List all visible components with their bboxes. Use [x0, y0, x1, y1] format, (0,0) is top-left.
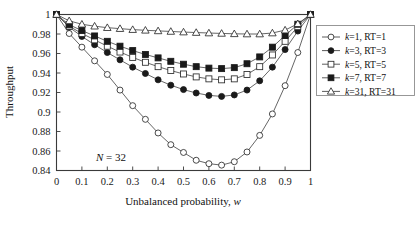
data-point-marker: [104, 38, 110, 44]
data-point-marker: [181, 61, 187, 67]
legend-item-label: k=7, RT=7: [345, 72, 386, 83]
data-point-marker: [181, 71, 187, 77]
data-point-marker: [219, 93, 225, 99]
data-point-marker: [219, 162, 225, 168]
data-point-marker: [231, 92, 237, 98]
data-point-marker: [244, 87, 250, 93]
data-point-marker: [206, 65, 212, 71]
y-tick-label: 0.84: [32, 165, 51, 176]
data-point-marker: [193, 90, 199, 96]
legend-item-1[interactable]: k=1, RT=1: [322, 31, 386, 42]
data-point-marker: [168, 142, 174, 148]
data-point-marker: [92, 58, 98, 64]
data-point-marker: [257, 64, 263, 70]
data-series-group: [53, 11, 315, 168]
data-point-marker: [257, 78, 263, 84]
data-point-marker: [193, 64, 199, 70]
data-point-marker: [269, 44, 275, 50]
data-point-marker: [168, 58, 174, 64]
chart-figure: 00.10.20.30.40.50.60.70.80.91 0.840.860.…: [0, 0, 418, 228]
data-point-marker: [168, 68, 174, 74]
data-point-marker: [193, 157, 199, 163]
data-point-marker: [281, 26, 289, 33]
y-tick-label: 0.86: [32, 146, 50, 157]
x-tick-label: 0.9: [279, 176, 292, 187]
y-tick-label: 0.96: [32, 48, 50, 59]
data-point-marker: [155, 130, 161, 136]
legend-items: k=1, RT=1k=3, RT=3k=5, RT=5k=7, RT=7k=31…: [322, 31, 396, 96]
legend-item-label: k=1, RT=1: [345, 31, 386, 42]
data-point-marker: [142, 59, 148, 65]
data-point-marker: [79, 44, 85, 50]
y-axis-title: Throughput: [3, 66, 15, 118]
legend: k=1, RT=1k=3, RT=3k=5, RT=5k=7, RT=7k=31…: [317, 26, 415, 97]
data-point-marker: [66, 31, 72, 37]
x-tick-label: 0.8: [253, 176, 266, 187]
data-point-marker: [244, 71, 250, 77]
legend-item-label: k=31, RT=31: [345, 86, 396, 97]
annotation-sample-size: N = 32: [95, 151, 126, 163]
y-tick-label: 0.94: [32, 68, 51, 79]
data-point-marker: [130, 48, 136, 54]
data-point-marker: [282, 83, 288, 89]
data-point-marker: [206, 92, 212, 98]
x-tick-label: 0.7: [228, 176, 241, 187]
data-point-marker: [231, 76, 237, 82]
x-tick-label: 0.5: [177, 176, 190, 187]
data-point-marker: [328, 61, 334, 67]
data-point-marker: [327, 88, 334, 94]
data-point-marker: [244, 149, 250, 155]
x-tick-label: 0.4: [152, 176, 166, 187]
legend-item-4[interactable]: k=7, RT=7: [322, 72, 386, 83]
data-point-marker: [282, 32, 288, 38]
data-point-marker: [117, 43, 123, 49]
data-point-marker: [282, 47, 288, 53]
data-point-marker: [269, 64, 275, 70]
y-tick-label: 0.88: [32, 126, 50, 137]
data-point-marker: [269, 52, 275, 58]
data-point-marker: [130, 103, 136, 109]
data-point-marker: [328, 34, 334, 40]
data-point-marker: [328, 75, 334, 81]
data-point-marker: [231, 65, 237, 71]
legend-item-label: k=5, RT=5: [345, 59, 386, 70]
data-point-marker: [117, 57, 123, 63]
data-point-marker: [142, 51, 148, 57]
data-point-marker: [243, 30, 251, 37]
data-point-marker: [328, 48, 334, 54]
data-point-marker: [142, 116, 148, 122]
data-point-marker: [79, 28, 85, 34]
data-point-marker: [142, 70, 148, 76]
throughput-vs-unbalanced-probability-chart: 00.10.20.30.40.50.60.70.80.91 0.840.860.…: [0, 0, 418, 228]
data-point-marker: [92, 33, 98, 39]
data-point-marker: [295, 50, 301, 56]
x-tick-label: 0.3: [126, 176, 139, 187]
y-tick-label: 0.92: [32, 87, 50, 98]
legend-item-3[interactable]: k=5, RT=5: [322, 59, 386, 70]
data-point-marker: [117, 87, 123, 93]
data-point-marker: [282, 38, 288, 44]
data-point-marker: [269, 111, 275, 117]
x-tick-label: 0.6: [202, 176, 215, 187]
legend-item-label: k=3, RT=3: [345, 45, 386, 56]
x-tick-label: 0.1: [75, 176, 88, 187]
data-point-marker: [231, 159, 237, 165]
data-point-marker: [193, 74, 199, 80]
data-point-marker: [104, 50, 110, 56]
y-tick-label: 0.9: [37, 107, 50, 118]
data-point-marker: [257, 54, 263, 60]
data-point-marker: [155, 55, 161, 61]
data-point-marker: [206, 161, 212, 167]
data-point-marker: [104, 71, 110, 77]
x-tick-label: 1: [308, 176, 313, 187]
data-point-marker: [168, 82, 174, 88]
y-tick-label: 1: [45, 9, 50, 20]
data-point-marker: [181, 87, 187, 93]
data-point-marker: [65, 17, 73, 24]
data-point-marker: [130, 54, 136, 60]
data-point-marker: [244, 61, 250, 67]
x-tick-label: 0: [54, 176, 59, 187]
legend-item-2[interactable]: k=3, RT=3: [322, 45, 386, 56]
data-point-marker: [219, 66, 225, 72]
x-axis-ticks: 00.10.20.30.40.50.60.70.80.91: [54, 167, 313, 187]
